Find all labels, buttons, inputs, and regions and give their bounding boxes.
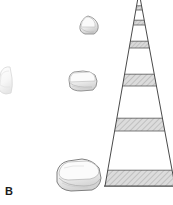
cone-outline bbox=[104, 0, 173, 186]
clast-large bbox=[57, 159, 101, 191]
panel-label: B bbox=[5, 186, 13, 197]
cone-right-edge bbox=[139, 0, 173, 186]
cone-left-edge bbox=[105, 0, 139, 186]
cone-bands bbox=[100, 6, 173, 187]
clast-medium bbox=[69, 71, 97, 91]
figure-panel: B bbox=[0, 0, 173, 205]
cone-band-6 bbox=[100, 170, 173, 186]
cone-band-5 bbox=[100, 118, 173, 131]
clast-small bbox=[80, 16, 98, 34]
figure-illustration bbox=[0, 0, 173, 205]
cone-band-4 bbox=[100, 74, 173, 86]
banded-cone bbox=[100, 0, 173, 186]
cone-band-2 bbox=[100, 20, 173, 25]
cone-band-3 bbox=[100, 41, 173, 48]
cone-band-rules bbox=[100, 6, 173, 170]
clast-partial-left bbox=[0, 67, 12, 94]
